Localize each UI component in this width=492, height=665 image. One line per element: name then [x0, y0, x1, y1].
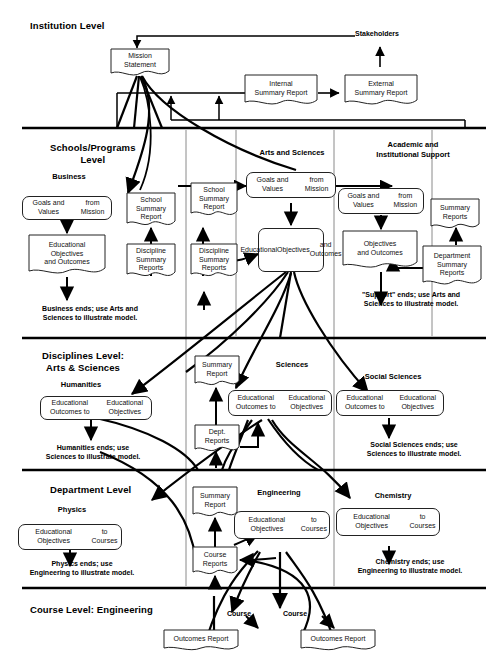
edge-label-course-left: Course [227, 610, 251, 617]
course-label-arrows [246, 616, 334, 628]
node-label: SummaryReports [438, 204, 472, 221]
node-engineering-objectives-courses[interactable]: Educational Objectivesto Courses [234, 511, 330, 539]
level-title-course: Course Level: Engineering [30, 604, 153, 615]
node-label: InternalSummary Report [253, 80, 310, 97]
node-label: Outcomes Report [309, 635, 368, 644]
node-as-discipline-summary-reports[interactable]: DisciplineSummaryReports [190, 243, 238, 281]
node-mission-statement[interactable]: MissionStatement [110, 48, 170, 78]
column-title-social-sciences: Social Sciences [350, 372, 436, 381]
node-internal-summary-report[interactable]: InternalSummary Report [244, 74, 318, 108]
node-chemistry-objectives-courses[interactable]: Educational Objectivesto Courses [336, 508, 440, 536]
node-as-educational-objectives-outcomes[interactable]: EducationalObjectivesand Outcomes [258, 228, 324, 272]
node-external-summary-report[interactable]: ExternalSummary Report [344, 74, 418, 108]
column-title-arts-and-sciences: Arts and Sciences [242, 148, 342, 157]
level-title-department: Department Level [50, 484, 131, 495]
node-social-sciences-outcomes-objectives[interactable]: Educational Outcomes toEducational Objec… [336, 390, 444, 416]
node-sciences-dept-reports[interactable]: Dept.Reports [194, 424, 240, 454]
column-title-academic-support-line2: Institutional Support [358, 150, 468, 160]
level-title-institution: Institution Level [30, 20, 105, 31]
level-title-schools-line1: Schools/Programs [50, 142, 136, 154]
edge-label-course-right: Course [283, 610, 307, 617]
node-support-goals-values[interactable]: Goals and Valuesfrom Mission [338, 188, 424, 214]
node-label: Outcomes Report [172, 635, 231, 644]
level-title-schools-line2: Level [50, 154, 136, 166]
level-title-disciplines-line1: Disciplines Level: [42, 350, 124, 362]
node-outcomes-report-left[interactable]: Outcomes Report [163, 629, 239, 653]
note-social-sciences: Social Sciences ends; useSciences to ill… [340, 440, 488, 458]
level-title-disciplines-line2: Arts & Sciences [42, 362, 124, 374]
column-title-business: Business [44, 172, 94, 181]
node-label: SummaryReport [200, 361, 234, 378]
column-title-physics: Physics [44, 505, 100, 514]
node-business-goals-values[interactable]: Goals and Valuesfrom Mission [22, 196, 112, 220]
edge-label-stakeholders: Stakeholders [355, 30, 399, 37]
node-label: SchoolSummaryReport [134, 196, 168, 222]
node-sciences-summary-report[interactable]: SummaryReport [194, 355, 240, 389]
node-business-discipline-summary-reports[interactable]: DisciplineSummaryReports [126, 243, 176, 281]
node-support-department-summary-reports[interactable]: DepartmentSummaryReports [422, 245, 482, 289]
node-label: EducationalObjectivesand Outcomes [42, 241, 92, 267]
note-business: Business ends; use Arts andSciences to i… [10, 304, 170, 322]
level-title-disciplines: Disciplines Level: Arts & Sciences [42, 350, 124, 374]
node-label: Objectivesand Outcomes [355, 240, 405, 257]
column-title-sciences: Sciences [262, 360, 322, 369]
node-outcomes-report-right[interactable]: Outcomes Report [300, 629, 376, 653]
node-as-goals-values[interactable]: Goals and Valuesfrom Mission [246, 172, 336, 198]
node-support-objectives-outcomes[interactable]: Objectivesand Outcomes [342, 230, 418, 272]
node-business-educational-objectives-outcomes[interactable]: EducationalObjectivesand Outcomes [28, 234, 106, 278]
node-sciences-outcomes-objectives[interactable]: Educational Outcomes toEducational Objec… [228, 390, 332, 416]
column-title-academic-support-line1: Academic and [358, 140, 468, 150]
column-title-engineering: Engineering [244, 488, 314, 497]
node-support-summary-reports[interactable]: SummaryReports [430, 198, 480, 232]
note-chemistry: Chemistry ends; useEngineering to illust… [330, 557, 490, 575]
node-label: CourseReports [201, 551, 230, 568]
level-title-schools: Schools/Programs Level [50, 142, 136, 166]
node-label: DepartmentSummaryReports [432, 252, 473, 278]
node-humanities-outcomes-objectives[interactable]: Educational Outcomes toEducational Objec… [40, 396, 152, 420]
node-label: SchoolSummaryReport [197, 186, 231, 212]
node-label: SummaryReport [198, 492, 232, 509]
note-humanities: Humanities ends; useSciences to illustra… [18, 443, 168, 461]
as-fanout [132, 272, 368, 394]
node-engineering-course-reports[interactable]: CourseReports [192, 546, 238, 578]
node-as-school-summary-report[interactable]: SchoolSummaryReport [190, 182, 238, 220]
diagram-canvas: Institution Level Schools/Programs Level… [0, 0, 492, 665]
node-label: DisciplineSummaryReports [134, 247, 168, 273]
column-title-humanities: Humanities [46, 380, 116, 389]
column-title-chemistry: Chemistry [358, 491, 428, 500]
node-label: DisciplineSummaryReports [197, 247, 231, 273]
node-engineering-summary-report[interactable]: SummaryReport [192, 486, 238, 520]
note-physics: Physics ends; useEngineering to illustra… [2, 559, 162, 577]
node-business-school-summary-report[interactable]: SchoolSummaryReport [126, 192, 176, 230]
node-label: MissionStatement [122, 52, 158, 69]
node-physics-objectives-courses[interactable]: Educational Objectivesto Courses [18, 524, 122, 550]
column-title-academic-support: Academic and Institutional Support [358, 140, 468, 160]
note-support: "Support" ends; use Arts andSciences to … [336, 290, 486, 308]
node-label: ExternalSummary Report [353, 80, 410, 97]
node-label: Dept.Reports [203, 428, 232, 445]
